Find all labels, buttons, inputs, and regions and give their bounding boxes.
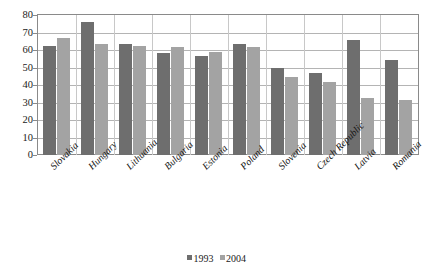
bar-chart: 80706050403020100 SlovakiaHungaryLithuan… <box>0 0 433 274</box>
category-separator <box>190 15 191 155</box>
bar-2004-lithuania[interactable] <box>133 46 146 155</box>
bar-group <box>38 15 76 155</box>
chart-legend: 19932004 <box>0 252 433 264</box>
legend-label: 2004 <box>226 253 246 264</box>
legend-label: 1993 <box>194 253 214 264</box>
y-tick-label: 10 <box>3 133 33 143</box>
bar-group <box>228 15 266 155</box>
bar-1993-slovenia[interactable] <box>271 68 284 156</box>
bar-2004-bulgaria[interactable] <box>171 47 184 155</box>
y-tick-label: 80 <box>3 10 33 20</box>
y-tick-label: 0 <box>3 150 33 160</box>
legend-item-2004[interactable]: 2004 <box>220 252 247 264</box>
legend-swatch-icon <box>187 255 192 260</box>
bar-group <box>380 15 418 155</box>
bar-1993-lithuania[interactable] <box>119 44 132 155</box>
y-tick-mark <box>33 155 37 156</box>
legend-item-1993[interactable]: 1993 <box>187 252 214 264</box>
category-separator <box>114 15 115 155</box>
bar-2004-hungary[interactable] <box>95 44 108 155</box>
y-tick-label: 20 <box>3 115 33 125</box>
bars-layer <box>38 15 418 155</box>
category-separator <box>76 15 77 155</box>
bar-group <box>152 15 190 155</box>
bar-group <box>114 15 152 155</box>
y-tick-label: 70 <box>3 28 33 38</box>
category-separator <box>304 15 305 155</box>
bar-group <box>76 15 114 155</box>
category-separator <box>266 15 267 155</box>
bar-group <box>266 15 304 155</box>
bar-2004-slovakia[interactable] <box>57 38 70 155</box>
y-tick-label: 60 <box>3 45 33 55</box>
bar-2004-poland[interactable] <box>247 47 260 156</box>
legend-swatch-icon <box>220 255 225 260</box>
y-tick-label: 40 <box>3 80 33 90</box>
y-axis: 80706050403020100 <box>0 0 33 274</box>
bar-1993-czech-republic[interactable] <box>309 73 322 155</box>
bar-1993-romania[interactable] <box>385 60 398 155</box>
bar-1993-slovakia[interactable] <box>43 46 56 155</box>
category-separator <box>380 15 381 155</box>
bar-1993-estonia[interactable] <box>195 56 208 155</box>
category-separator <box>152 15 153 155</box>
bar-1993-poland[interactable] <box>233 44 246 155</box>
bar-group <box>304 15 342 155</box>
bar-1993-bulgaria[interactable] <box>157 53 170 155</box>
y-tick-label: 50 <box>3 63 33 73</box>
bar-group <box>190 15 228 155</box>
bar-1993-hungary[interactable] <box>81 22 94 155</box>
category-separator <box>228 15 229 155</box>
y-tick-label: 30 <box>3 98 33 108</box>
bar-2004-estonia[interactable] <box>209 52 222 155</box>
